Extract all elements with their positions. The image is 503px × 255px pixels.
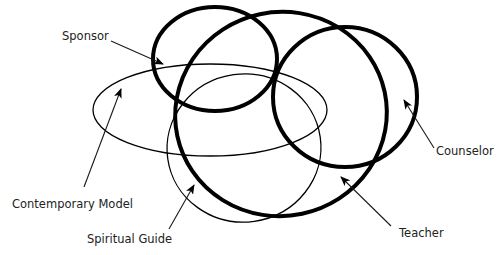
teacher-label: Teacher [398, 226, 444, 240]
sponsor-label: Sponsor [62, 29, 109, 43]
counselor-arrow [404, 100, 434, 148]
spiritual-guide-ellipse [157, 64, 330, 232]
spiritual-guide-label: Spiritual Guide [87, 232, 172, 246]
contemporary-model-arrow [84, 89, 121, 187]
teacher-circle [156, 0, 406, 236]
counselor-circle [273, 27, 417, 167]
sponsor-circle [153, 7, 277, 111]
teacher-arrow [341, 177, 391, 226]
contemporary-model-label: Contemporary Model [12, 197, 133, 211]
mentoring-roles-diagram: Sponsor Teacher Counselor Contemporary M… [0, 0, 503, 255]
counselor-label: Counselor [436, 144, 494, 158]
